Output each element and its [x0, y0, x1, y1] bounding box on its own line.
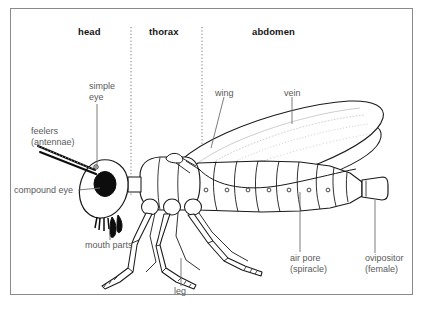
region-label-abdomen: abdomen — [252, 26, 295, 37]
label-simple-eye-line2: eye — [89, 92, 115, 103]
label-wing: wing — [215, 88, 234, 99]
label-simple-eye-line1: simple — [89, 81, 115, 92]
label-ovipositor: ovipositor (female) — [365, 253, 404, 274]
insect-anatomy-diagram: head thorax abdomen simple eye feelers (… — [0, 0, 429, 313]
label-feelers-line2: (antennae) — [31, 137, 75, 148]
label-air-pore: air pore (spiracle) — [290, 253, 327, 274]
region-label-head: head — [78, 26, 101, 37]
label-vein: vein — [284, 88, 301, 99]
diagram-frame — [10, 8, 413, 295]
label-leg: leg — [174, 286, 186, 297]
label-feelers-line1: feelers — [31, 126, 75, 137]
region-label-thorax: thorax — [149, 26, 179, 37]
label-compound-eye: compound eye — [14, 185, 73, 196]
label-air-pore-line1: air pore — [290, 253, 327, 264]
label-simple-eye: simple eye — [89, 81, 115, 102]
label-ovipositor-line2: (female) — [365, 264, 404, 275]
label-feelers: feelers (antennae) — [31, 126, 75, 147]
label-ovipositor-line1: ovipositor — [365, 253, 404, 264]
label-mouth-parts: mouth parts — [85, 240, 133, 251]
label-air-pore-line2: (spiracle) — [290, 264, 327, 275]
